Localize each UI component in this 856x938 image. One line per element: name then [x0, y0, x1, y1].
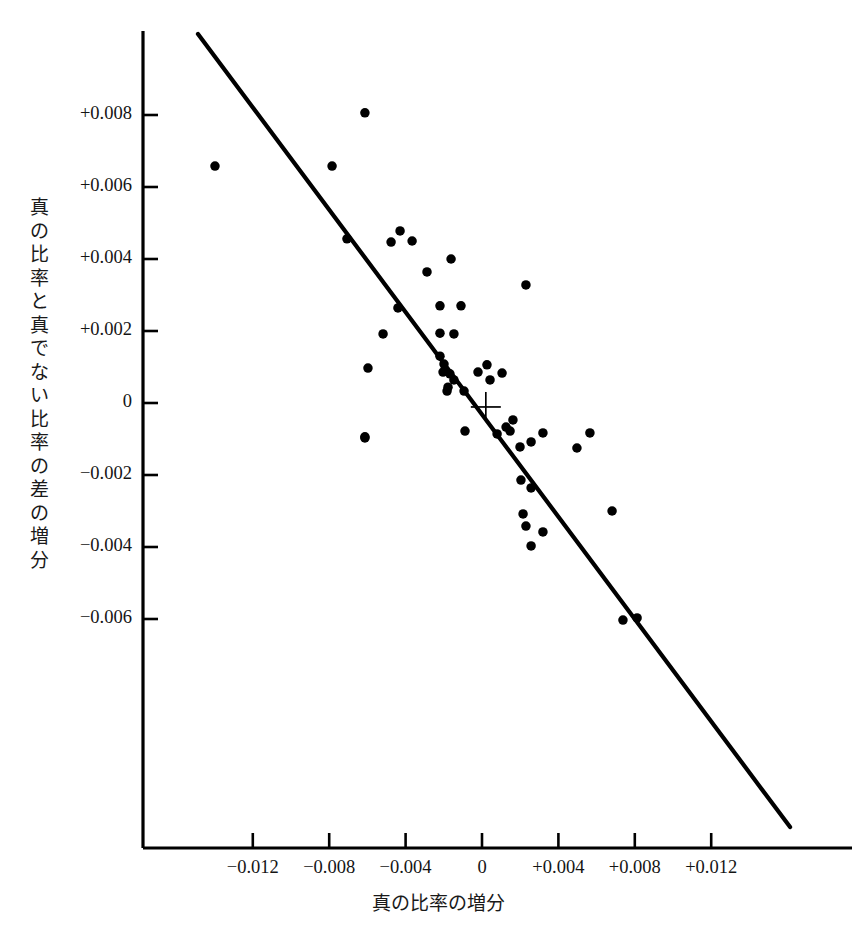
- scatter-point: [435, 301, 445, 311]
- y-axis-label-char: 率: [22, 267, 56, 291]
- scatter-point: [210, 161, 220, 171]
- scatter-point: [327, 161, 337, 171]
- scatter-point: [456, 301, 466, 311]
- y-axis-label-char: 真: [22, 314, 56, 338]
- y-tick-label: 0: [60, 391, 132, 412]
- y-axis-label-char: 率: [22, 431, 56, 455]
- scatter-point: [618, 615, 628, 625]
- scatter-point: [482, 360, 492, 370]
- scatter-point: [515, 442, 525, 452]
- y-axis-label-char: 分: [22, 549, 56, 573]
- scatter-point: [395, 226, 405, 236]
- y-axis-label-char: 真: [22, 196, 56, 220]
- scatter-point: [442, 386, 452, 396]
- y-axis-label-char: と: [22, 290, 56, 314]
- y-tick-label: −0.006: [60, 607, 132, 628]
- y-axis-label-char: 差: [22, 478, 56, 502]
- y-axis-label: 真の比率と真でない比率の差の増分: [22, 196, 56, 572]
- scatter-point: [378, 329, 388, 339]
- scatter-point: [518, 509, 528, 519]
- y-axis-label-char: の: [22, 502, 56, 526]
- x-axis-label: 真の比率の増分: [372, 893, 505, 914]
- scatter-point: [505, 426, 515, 436]
- y-tick-label: +0.004: [60, 247, 132, 268]
- y-axis-ticks: [143, 115, 158, 619]
- y-tick-label: +0.008: [60, 103, 132, 124]
- scatter-point: [538, 527, 548, 537]
- x-axis-label-wrap: 真の比率の増分: [0, 888, 856, 915]
- scatter-point: [526, 541, 536, 551]
- y-tick-label: −0.002: [60, 463, 132, 484]
- data-points: [210, 108, 642, 625]
- scatter-point: [521, 521, 531, 531]
- y-axis-label-char: 比: [22, 408, 56, 432]
- scatter-point: [460, 426, 470, 436]
- scatter-point: [526, 437, 536, 447]
- scatter-point: [521, 280, 531, 290]
- scatter-point: [492, 429, 502, 439]
- y-axis-label-char: い: [22, 384, 56, 408]
- y-axis-label-char: の: [22, 455, 56, 479]
- y-axis-label-char: 比: [22, 243, 56, 267]
- scatter-point: [342, 234, 352, 244]
- scatter-point: [585, 428, 595, 438]
- scatter-point: [516, 475, 526, 485]
- x-axis-ticks: [253, 833, 711, 848]
- center-cross-marker: [471, 392, 501, 422]
- scatter-point: [572, 443, 582, 453]
- scatter-point: [473, 367, 483, 377]
- scatter-point: [360, 108, 370, 118]
- scatter-point: [363, 363, 373, 373]
- scatter-point: [360, 432, 370, 442]
- scatter-point: [485, 375, 495, 385]
- scatter-point: [508, 415, 518, 425]
- x-tick-label: +0.012: [661, 857, 761, 878]
- y-tick-label: −0.004: [60, 535, 132, 556]
- y-axis-label-char: 増: [22, 525, 56, 549]
- scatter-point: [422, 267, 432, 277]
- y-axis-label-char: の: [22, 220, 56, 244]
- scatter-point: [386, 237, 396, 247]
- scatter-point: [393, 303, 403, 313]
- scatter-point: [407, 236, 417, 246]
- scatter-point: [459, 386, 469, 396]
- scatter-plot-figure: 真の比率と真でない比率の差の増分 真の比率の増分 −0.006−0.004−0.…: [0, 0, 856, 938]
- scatter-point: [607, 506, 617, 516]
- scatter-point: [526, 483, 536, 493]
- axes: [143, 31, 852, 848]
- y-tick-label: +0.002: [60, 319, 132, 340]
- scatter-point: [435, 328, 445, 338]
- y-axis-label-char: な: [22, 361, 56, 385]
- y-tick-label: +0.006: [60, 175, 132, 196]
- scatter-point: [632, 613, 642, 623]
- scatter-point: [497, 368, 507, 378]
- y-axis-label-char: で: [22, 337, 56, 361]
- scatter-point: [538, 428, 548, 438]
- scatter-point: [449, 329, 459, 339]
- scatter-point: [446, 254, 456, 264]
